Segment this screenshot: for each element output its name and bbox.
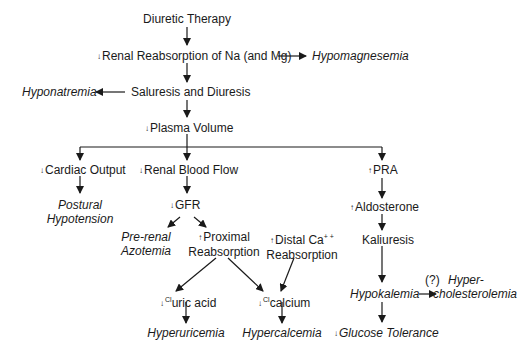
label-line-1: Proximal (203, 230, 250, 244)
node-renal-blood-flow: ↓Renal Blood Flow (139, 163, 238, 178)
label: Plasma Volume (150, 121, 233, 135)
decrease-arrow-icon: ↓ (334, 329, 338, 338)
node-plasma-volume: ↓Plasma Volume (145, 121, 233, 136)
node-distal-ca-reabsorption: ↑Distal Ca+ + Reabsorption (266, 230, 337, 262)
node-hypercalcemia: Hypercalcemia (242, 326, 321, 340)
label: PRA (373, 163, 398, 177)
label: Kaliuresis (362, 233, 414, 247)
label: GFR (175, 198, 200, 212)
node-clearance-calcium: ↓Clcalcium (258, 293, 310, 311)
label: Hyponatremia (22, 85, 97, 99)
increase-arrow-icon: ↑ (350, 203, 354, 212)
label: uric acid (172, 296, 217, 310)
label-line-1: Pre-renal (121, 230, 171, 244)
diuretic-flowchart: Diuretic Therapy ↓Renal Reabsorption of … (0, 0, 523, 350)
node-renal-reabsorption: ↓Renal Reabsorption of Na (and Mg) (97, 49, 291, 64)
label: calcium (270, 296, 311, 310)
decrease-arrow-icon: ↓ (258, 299, 262, 308)
decrease-arrow-icon: ↓ (145, 124, 149, 133)
label: Renal Reabsorption of Na (and Mg) (102, 49, 291, 63)
increase-arrow-icon: ↑ (198, 233, 202, 242)
label-line-1: Distal Ca (275, 233, 324, 247)
node-saluresis-diuresis: Saluresis and Diuresis (131, 85, 250, 99)
decrease-arrow-icon: ↓ (139, 166, 143, 175)
node-question-mark: (?) (425, 273, 440, 287)
label: Renal Blood Flow (144, 163, 238, 177)
node-hypomagnesemia: Hypomagnesemia (312, 49, 409, 63)
label: cholesterolemia (433, 287, 517, 301)
label: (?) (425, 273, 440, 287)
node-postural-hypotension: Postural Hypotension (47, 198, 114, 226)
decrease-arrow-icon: ↓ (170, 201, 174, 210)
node-hypokalemia: Hypokalemia (350, 287, 419, 301)
node-hyperchol-line-1: Hyper- (448, 273, 484, 287)
increase-arrow-icon: ↑ (270, 236, 274, 245)
node-aldosterone: ↑Aldosterone (350, 200, 419, 215)
node-pra: ↑PRA (368, 163, 398, 178)
node-gfr: ↓GFR (170, 198, 200, 213)
node-clearance-uric-acid: ↓Cluric acid (160, 293, 216, 311)
decrease-arrow-icon: ↓ (97, 52, 101, 61)
label-line-2: Reabsorption (188, 245, 259, 259)
label: Hyperuricemia (147, 326, 224, 340)
label-line-1: Postural (47, 198, 114, 212)
label: Hypercalcemia (242, 326, 321, 340)
node-proximal-reabsorption: ↑Proximal Reabsorption (188, 230, 259, 259)
node-hyponatremia: Hyponatremia (22, 85, 97, 99)
label: Diuretic Therapy (143, 12, 231, 26)
node-hyperuricemia: Hyperuricemia (147, 326, 224, 340)
label-line-2: Hypotension (47, 212, 114, 226)
superscript: + + (324, 233, 334, 240)
node-glucose-tolerance: ↓Glucose Tolerance (334, 326, 439, 341)
label: Cardiac Output (45, 163, 126, 177)
increase-arrow-icon: ↑ (368, 166, 372, 175)
label: Glucose Tolerance (339, 326, 439, 340)
label-line-2: Azotemia (121, 244, 171, 258)
decrease-arrow-icon: ↓ (160, 299, 164, 308)
label: Hyper- (448, 273, 484, 287)
label: Hypomagnesemia (312, 49, 409, 63)
node-kaliuresis: Kaliuresis (362, 233, 414, 247)
superscript: Cl (165, 296, 172, 303)
label: Saluresis and Diuresis (131, 85, 250, 99)
superscript: Cl (263, 296, 270, 303)
label-line-2: Reabsorption (266, 248, 337, 262)
node-cardiac-output: ↓Cardiac Output (40, 163, 126, 178)
label: Aldosterone (355, 200, 419, 214)
node-prerenal-azotemia: Pre-renal Azotemia (121, 230, 171, 258)
label: Hypokalemia (350, 287, 419, 301)
node-diuretic-therapy: Diuretic Therapy (143, 12, 231, 26)
node-hyperchol-line-2: cholesterolemia (433, 287, 517, 301)
decrease-arrow-icon: ↓ (40, 166, 44, 175)
